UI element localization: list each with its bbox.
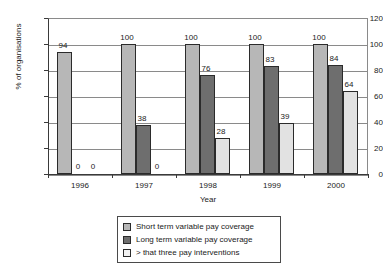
bar [136,125,151,174]
bar-value-label: 0 [155,162,159,171]
bar [328,65,343,174]
bar-value-label: 100 [312,33,325,42]
bar [185,44,200,174]
legend-label: > that three pay interventions [136,248,239,257]
gridline [49,175,368,176]
x-tick-label: 1999 [263,181,281,190]
bar [57,52,72,174]
bar [215,138,230,174]
legend-swatch-three-interventions-icon [123,249,131,257]
bar-chart: % of organisations 020406080100120 19961… [0,0,383,272]
bar-value-label: 76 [202,64,211,73]
x-axis-title: Year [48,195,368,204]
legend-item: > that three pay interventions [123,246,275,259]
bar [343,91,358,174]
bar-value-label: 94 [59,41,68,50]
x-tick-label: 1996 [71,181,89,190]
bar-value-label: 38 [138,114,147,123]
bar-value-label: 100 [120,33,133,42]
legend-swatch-long-term-icon [123,236,131,244]
bar [121,44,136,174]
bar-value-label: 0 [91,162,95,171]
bar-value-label: 28 [217,127,226,136]
bar [264,66,279,174]
legend-item: Short term variable pay coverage [123,220,275,233]
y-axis-title: % of organisations [14,0,23,127]
bar-value-label: 83 [266,55,275,64]
bar-value-label: 84 [330,54,339,63]
x-axis-line [48,174,368,175]
bar [249,44,264,174]
x-tick-mark [176,174,177,178]
bar-value-label: 0 [76,162,80,171]
bar-value-label: 64 [345,80,354,89]
x-tick-mark [48,174,49,178]
bar [279,123,294,174]
chart-legend: Short term variable pay coverage Long te… [117,216,281,263]
bar [200,75,215,174]
bar [313,44,328,174]
legend-swatch-short-term-icon [123,223,131,231]
bar-value-label: 100 [184,33,197,42]
x-tick-label: 1998 [199,181,217,190]
plot-right-border [367,19,368,174]
x-tick-label: 1997 [135,181,153,190]
legend-label: Short term variable pay coverage [136,222,254,231]
x-tick-mark [240,174,241,178]
legend-item: Long term variable pay coverage [123,233,275,246]
x-tick-mark [368,174,369,178]
x-tick-mark [304,174,305,178]
bar-value-label: 100 [248,33,261,42]
legend-label: Long term variable pay coverage [136,235,253,244]
bar-value-label: 39 [281,112,290,121]
x-tick-mark [112,174,113,178]
x-tick-label: 2000 [327,181,345,190]
